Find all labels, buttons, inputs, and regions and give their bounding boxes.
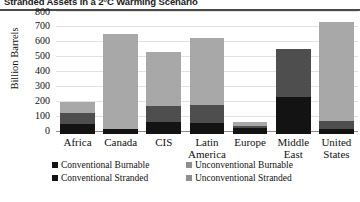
bar-segment-cb <box>146 122 181 134</box>
bar-segment-cs <box>60 113 95 124</box>
legend-item-unconventional-burnable[interactable]: Unconventional Burnable <box>186 160 352 170</box>
y-axis-ticks: 800 700 600 500 400 300 200 100 0 <box>22 11 50 141</box>
chart-legend: Conventional Burnable Unconventional Bur… <box>52 160 352 183</box>
bar-segment-cb <box>190 123 225 134</box>
legend-label-conventional-stranded: Conventional Stranded <box>61 173 148 183</box>
bar-segment-cs <box>319 121 354 129</box>
bar-segment-cb <box>276 97 311 135</box>
bar-segment-us <box>60 102 95 113</box>
x-label-line: Canada <box>101 137 140 149</box>
bar-europe[interactable] <box>233 11 268 134</box>
bar-group <box>56 11 358 134</box>
plot-area <box>56 11 358 134</box>
legend-swatch-icon-conventional-burnable <box>52 162 58 168</box>
y-axis-title: Billion Barrels <box>9 19 20 99</box>
figure-container: Stranded Assets in a 2°C Warming Scenari… <box>0 0 360 202</box>
x-label-line: Europe <box>231 137 270 149</box>
y-tick-600: 600 <box>22 36 50 46</box>
legend-label-conventional-burnable: Conventional Burnable <box>61 160 149 170</box>
legend-swatch-icon-unconventional-burnable <box>186 162 192 168</box>
bar-united-states[interactable] <box>319 11 354 134</box>
x-label-line: Middle <box>274 137 313 149</box>
y-tick-100: 100 <box>22 111 50 121</box>
bar-canada[interactable] <box>103 11 138 134</box>
bar-africa[interactable] <box>60 11 95 134</box>
legend-label-unconventional-stranded: Unconventional Stranded <box>195 173 292 183</box>
bar-segment-cs <box>276 49 311 96</box>
legend-swatch-icon-conventional-stranded <box>52 175 58 181</box>
bar-segment-us <box>146 52 181 106</box>
bar-segment-cb <box>60 124 95 135</box>
bar-segment-cb <box>103 129 138 134</box>
bar-cis[interactable] <box>146 11 181 134</box>
legend-swatch-icon-unconventional-stranded <box>186 175 192 181</box>
figure-title: Stranded Assets in a 2°C Warming Scenari… <box>4 0 198 7</box>
bar-segment-cs <box>146 106 181 122</box>
x-label-line: United <box>317 137 356 149</box>
bar-latin-america[interactable] <box>190 11 225 134</box>
bar-segment-cb <box>233 128 268 134</box>
bar-segment-cb <box>319 129 354 134</box>
x-label-line: CIS <box>144 137 183 149</box>
y-tick-0: 0 <box>22 126 50 136</box>
bar-segment-cs <box>190 105 225 123</box>
x-label-line: Latin <box>187 137 226 149</box>
bar-segment-us <box>319 22 354 121</box>
legend-item-conventional-stranded[interactable]: Conventional Stranded <box>52 173 180 183</box>
legend-label-unconventional-burnable: Unconventional Burnable <box>195 160 293 170</box>
y-tick-500: 500 <box>22 51 50 61</box>
x-label-line: States <box>317 149 356 161</box>
bar-segment-us <box>103 34 138 129</box>
legend-item-conventional-burnable[interactable]: Conventional Burnable <box>52 160 180 170</box>
y-tick-700: 700 <box>22 21 50 31</box>
x-label-line: America <box>187 149 226 161</box>
legend-item-unconventional-stranded[interactable]: Unconventional Stranded <box>186 173 352 183</box>
x-label-line: Africa <box>58 137 97 149</box>
bar-segment-us <box>190 38 225 105</box>
bar-middle-east[interactable] <box>276 11 311 134</box>
y-tick-300: 300 <box>22 81 50 91</box>
x-label-line: East <box>274 149 313 161</box>
y-tick-800: 800 <box>22 7 50 17</box>
y-tick-400: 400 <box>22 66 50 76</box>
y-tick-200: 200 <box>22 96 50 106</box>
figure-title-clip: Stranded Assets in a 2°C Warming Scenari… <box>0 0 360 9</box>
